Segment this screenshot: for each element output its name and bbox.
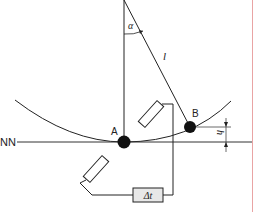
label-a: A [111,126,118,137]
pendulum-diagram: NN α l h A B Δt [0,0,254,212]
label-height: h [215,130,226,135]
label-timer: Δt [143,190,153,201]
point-a [118,136,131,149]
wire-lower [80,180,133,195]
point-b [184,121,196,133]
label-nn: NN [0,136,16,148]
label-b: B [192,108,199,119]
label-alpha: α [128,20,134,31]
wire-upper [162,104,173,195]
height-arrow-bottom-icon [224,142,228,147]
upper-light-barrier [138,101,163,128]
height-arrow-top-icon [224,122,228,127]
lower-light-barrier [83,156,108,183]
label-length: l [163,50,166,62]
